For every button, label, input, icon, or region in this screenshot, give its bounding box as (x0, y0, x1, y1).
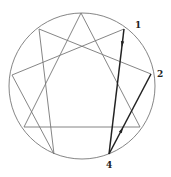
line-2-8 (39, 29, 151, 74)
outer-circle (9, 13, 155, 159)
point-label-4: 4 (106, 160, 112, 170)
point-label-1: 1 (135, 20, 141, 30)
arrow-icon (119, 127, 123, 133)
enneagram-diagram: 124 (0, 0, 171, 177)
line-4-2 (109, 74, 151, 154)
line-5-7 (12, 75, 54, 154)
line-9-3 (81, 13, 140, 127)
enneagram-circle (9, 13, 155, 159)
thin-lines (12, 13, 151, 154)
point-label-2: 2 (157, 69, 163, 79)
line-6-9 (24, 13, 81, 127)
